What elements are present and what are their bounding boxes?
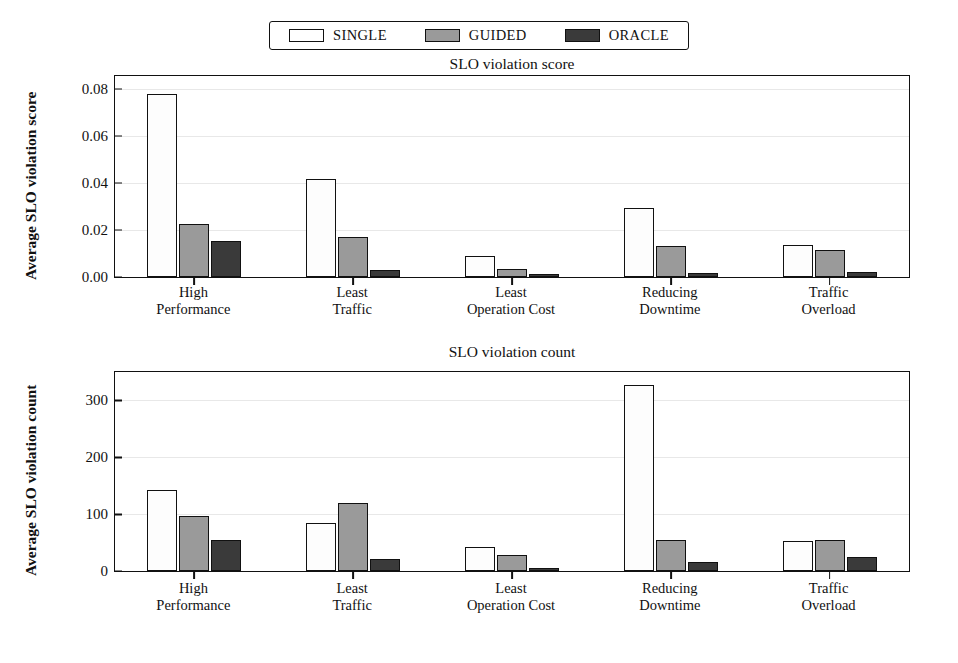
y-axis-tick: 300	[86, 392, 116, 409]
y-axis-tick-mark	[115, 513, 122, 515]
bar-oracle-0	[211, 241, 241, 277]
bar-oracle-3	[688, 273, 718, 277]
bar-single-4	[783, 541, 813, 571]
x-axis-tick-label: LeastTraffic	[332, 580, 371, 614]
legend-item-guided: GUIDED	[425, 27, 527, 44]
legend-swatch-guided	[425, 29, 460, 42]
bar-single-1	[306, 523, 336, 571]
figure: SINGLE GUIDED ORACLE SLO violation score…	[0, 0, 958, 663]
x-axis-tick-label: TrafficOverload	[802, 580, 856, 614]
bar-guided-0	[179, 516, 209, 571]
y-axis-tick-mark	[115, 456, 122, 458]
legend-label-single: SINGLE	[333, 27, 387, 44]
gridline	[115, 230, 909, 231]
x-axis-tick-mark	[511, 571, 513, 579]
bar-single-2	[465, 547, 495, 571]
y-axis-tick: 0.08	[82, 80, 115, 97]
bar-guided-2	[497, 269, 527, 277]
x-axis-tick-label-line: Least	[332, 580, 371, 597]
x-axis-tick-label-line: Least	[467, 284, 555, 301]
plot-area-top: 0.000.020.040.060.08	[114, 75, 910, 278]
gridline	[115, 183, 909, 184]
x-axis-tick-label-line: Reducing	[639, 580, 700, 597]
bar-oracle-2	[529, 274, 559, 277]
bar-guided-1	[338, 503, 368, 571]
y-axis-tick-label: 0	[101, 563, 116, 580]
x-axis-tick-label: LeastOperation Cost	[467, 284, 555, 318]
x-axis-tick-label-line: Performance	[156, 597, 230, 614]
bar-single-0	[147, 490, 177, 571]
x-axis-tick-label-line: Traffic	[802, 580, 856, 597]
bar-guided-2	[497, 555, 527, 571]
x-axis-tick-mark	[670, 571, 672, 579]
x-axis-tick-label-line: Downtime	[639, 301, 700, 318]
y-axis-tick-mark	[115, 276, 122, 278]
x-axis-tick-label-line: Operation Cost	[467, 597, 555, 614]
y-axis-tick-label: 0.06	[82, 127, 115, 144]
y-axis-tick-mark	[115, 88, 122, 90]
y-axis-tick-label: 0.00	[82, 269, 115, 286]
bar-single-4	[783, 245, 813, 277]
y-axis-tick: 100	[86, 506, 116, 523]
y-axis-tick-mark	[115, 229, 122, 231]
x-axis-tick-label-line: Downtime	[639, 597, 700, 614]
bar-guided-0	[179, 224, 209, 277]
x-axis-tick-mark	[352, 571, 354, 579]
y-axis-label-bottom: Average SLO violation count	[22, 385, 40, 576]
chart-legend: SINGLE GUIDED ORACLE	[269, 21, 689, 50]
legend-label-guided: GUIDED	[469, 27, 527, 44]
x-axis-tick-label-line: Traffic	[802, 284, 856, 301]
y-axis-tick: 200	[86, 449, 116, 466]
x-axis-tick-label-line: Overload	[802, 301, 856, 318]
y-axis-tick: 0	[101, 563, 116, 580]
bar-oracle-0	[211, 540, 241, 571]
y-axis-tick-mark	[115, 400, 122, 402]
x-axis-tick-label: ReducingDowntime	[639, 284, 700, 318]
bar-oracle-1	[370, 270, 400, 277]
bar-guided-1	[338, 237, 368, 277]
gridline	[115, 136, 909, 137]
legend-item-single: SINGLE	[289, 27, 387, 44]
bar-oracle-4	[847, 557, 877, 571]
legend-swatch-oracle	[565, 29, 600, 42]
legend-swatch-single	[289, 29, 324, 42]
chart-panel-slo-violation-score: SLO violation score Average SLO violatio…	[0, 52, 958, 342]
gridline	[115, 457, 909, 458]
x-axis-tick-label: LeastTraffic	[332, 284, 371, 318]
y-axis-tick-label: 0.08	[82, 80, 115, 97]
bar-guided-4	[815, 540, 845, 571]
y-axis-tick: 0.02	[82, 221, 115, 238]
x-axis-tick-label-line: Performance	[156, 301, 230, 318]
bar-guided-3	[656, 246, 686, 277]
x-axis-tick-label-line: High	[156, 580, 230, 597]
x-axis-tick-mark	[829, 571, 831, 579]
y-axis-tick-label: 100	[86, 506, 116, 523]
x-axis-tick-label-line: Least	[332, 284, 371, 301]
bar-single-3	[624, 208, 654, 277]
y-axis-tick: 0.04	[82, 174, 115, 191]
bar-oracle-3	[688, 562, 718, 571]
y-axis-tick-mark	[115, 570, 122, 572]
bar-oracle-1	[370, 559, 400, 571]
plot-area-bottom: 0100200300	[114, 371, 910, 572]
x-axis-tick-label: HighPerformance	[156, 580, 230, 614]
y-axis-tick-label: 200	[86, 449, 116, 466]
bar-single-3	[624, 385, 654, 571]
gridline	[115, 400, 909, 401]
x-axis-tick-label: ReducingDowntime	[639, 580, 700, 614]
y-axis-tick-label: 0.04	[82, 174, 115, 191]
bar-guided-3	[656, 540, 686, 571]
x-axis-tick-label: TrafficOverload	[802, 284, 856, 318]
x-axis-tick-label-line: High	[156, 284, 230, 301]
bar-single-1	[306, 179, 336, 277]
y-axis-tick-mark	[115, 135, 122, 137]
bar-single-2	[465, 256, 495, 277]
x-axis-tick-label-line: Overload	[802, 597, 856, 614]
y-axis-tick-mark	[115, 182, 122, 184]
x-axis-tick-label: HighPerformance	[156, 284, 230, 318]
legend-label-oracle: ORACLE	[609, 27, 669, 44]
x-axis-tick-label-line: Operation Cost	[467, 301, 555, 318]
x-axis-tick-label-line: Least	[467, 580, 555, 597]
chart-panel-slo-violation-count: SLO violation count Average SLO violatio…	[0, 342, 958, 663]
x-axis-tick-label-line: Reducing	[639, 284, 700, 301]
